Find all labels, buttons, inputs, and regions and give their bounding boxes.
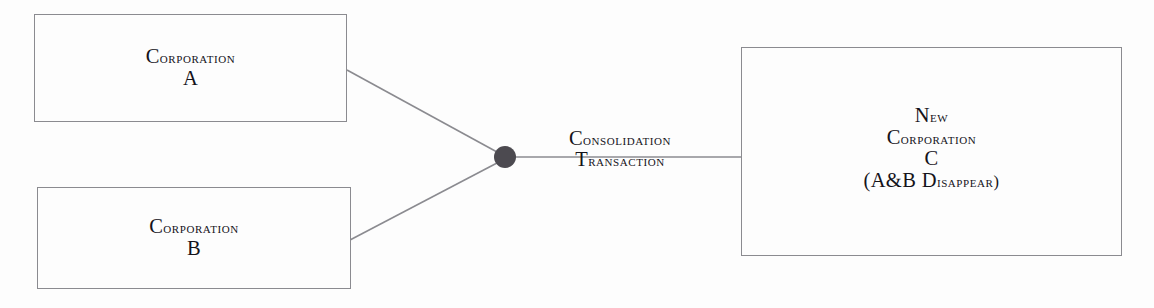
corporation-a-label: Corporation A xyxy=(146,46,235,89)
edge-corporation-a-to-junction xyxy=(347,70,497,152)
node-corporation-b[interactable]: Corporation B xyxy=(37,187,351,289)
diagram-canvas: Corporation A Corporation B New Corporat… xyxy=(0,0,1154,308)
transaction-label-line-1: Consolidation xyxy=(524,128,716,149)
transaction-label-line-2: Transaction xyxy=(524,149,716,170)
new-corporation-c-line-1: New xyxy=(864,105,1000,127)
new-corporation-c-line-2: Corporation xyxy=(864,127,1000,149)
edge-corporation-b-to-junction xyxy=(350,163,497,240)
corporation-b-label: Corporation B xyxy=(149,216,238,259)
corporation-b-line-1: Corporation xyxy=(149,216,238,238)
consolidation-transaction-label: Consolidation Transaction xyxy=(524,128,716,171)
corporation-b-line-2: B xyxy=(149,238,238,260)
corporation-a-line-2: A xyxy=(146,68,235,90)
node-corporation-a[interactable]: Corporation A xyxy=(34,14,347,122)
node-new-corporation-c[interactable]: New Corporation C (A&B Disappear) xyxy=(741,47,1122,256)
new-corporation-c-line-3: C xyxy=(864,148,1000,170)
corporation-a-line-1: Corporation xyxy=(146,46,235,68)
new-corporation-c-label: New Corporation C (A&B Disappear) xyxy=(864,105,1000,192)
new-corporation-c-line-4: (A&B Disappear) xyxy=(864,170,1000,192)
junction-node-icon xyxy=(494,146,516,168)
